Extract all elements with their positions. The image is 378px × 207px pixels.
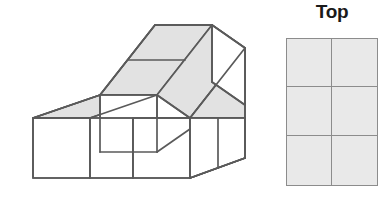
top-view-grid <box>286 38 378 186</box>
grid-cell-r3c2 <box>331 135 378 186</box>
grid-cell-r1c2 <box>331 38 378 87</box>
front-face-bottom-mid <box>90 118 133 178</box>
grid-cell-r2c1 <box>286 86 332 136</box>
front-face-bottom-left <box>33 118 90 178</box>
grid-cell-r3c1 <box>286 135 332 186</box>
grid-cell-r1c1 <box>286 38 332 87</box>
block-diagram-svg <box>0 0 265 207</box>
isometric-block-figure <box>0 0 265 207</box>
top-view-label: Top <box>300 1 364 23</box>
grid-cell-r2c2 <box>331 86 378 136</box>
